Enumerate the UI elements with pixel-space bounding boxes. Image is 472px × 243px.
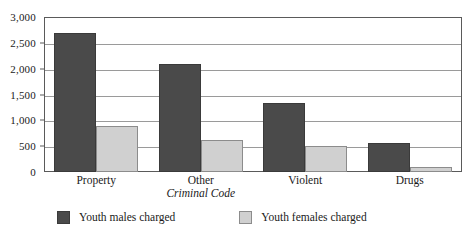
legend-swatch-males-icon (57, 211, 70, 224)
x-category-label: OtherCriminal Code (166, 174, 235, 200)
legend-label-females: Youth females charged (261, 211, 366, 224)
bar-other-criminal-code-males (159, 64, 201, 173)
bar-property-females (96, 126, 138, 173)
bar-property-males (54, 33, 96, 173)
legend-item-males: Youth males charged (57, 211, 175, 224)
y-tick-label: 1,500 (10, 89, 36, 100)
y-tick-label: 3,000 (10, 12, 36, 23)
y-tick-label: 2,000 (10, 63, 36, 74)
legend-item-females: Youth females charged (239, 211, 366, 224)
bar-violent-males (263, 103, 305, 172)
bars-layer (44, 17, 462, 172)
bar-drugs-males (368, 143, 410, 172)
y-tick-label: 0 (30, 167, 36, 178)
x-category-label: Drugs (396, 174, 424, 187)
x-category-label: Property (76, 174, 116, 187)
legend-swatch-females-icon (239, 211, 252, 224)
x-category-label: Violent (288, 174, 322, 187)
y-tick-label: 2,500 (10, 37, 36, 48)
y-tick-label: 500 (19, 141, 36, 152)
y-tick-label: 1,000 (10, 115, 36, 126)
bar-drugs-females (410, 167, 452, 172)
legend-label-males: Youth males charged (79, 211, 175, 224)
bar-violent-females (305, 146, 347, 172)
grouped-bar-chart: 3,0002,5002,0001,5001,0005000 PropertyOt… (0, 0, 472, 243)
legend: Youth males charged Youth females charge… (57, 211, 367, 224)
bar-other-criminal-code-females (201, 140, 243, 172)
y-axis: 3,0002,5002,0001,5001,0005000 (0, 17, 44, 172)
x-axis-categories: PropertyOtherCriminal CodeViolentDrugs (44, 174, 462, 208)
